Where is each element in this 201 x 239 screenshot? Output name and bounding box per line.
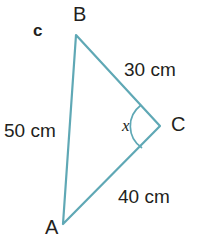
vertex-label-a: A — [45, 217, 58, 237]
side-label-ca: 40 cm — [118, 187, 170, 206]
side-label-ab: 50 cm — [4, 121, 56, 140]
angle-arc-icon — [130, 106, 141, 148]
side-label-bc: 30 cm — [124, 60, 176, 79]
vertex-label-b: B — [73, 4, 86, 24]
vertex-label-c: C — [171, 114, 185, 134]
triangle-figure: c B C A 50 cm 30 cm 40 cm x — [0, 0, 201, 239]
angle-label-x: x — [122, 117, 130, 134]
figure-tag: c — [33, 22, 42, 39]
